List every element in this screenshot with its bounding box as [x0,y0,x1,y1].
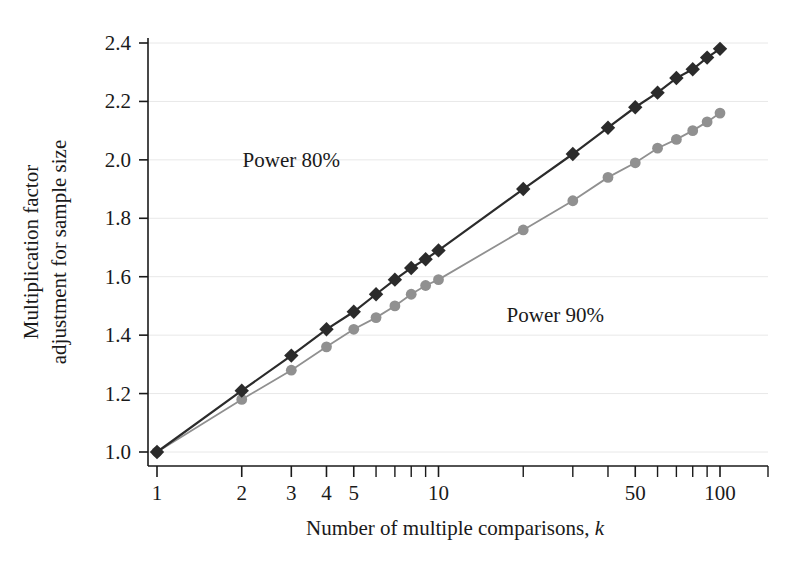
data-point-marker [286,365,297,376]
data-point-marker [406,289,417,300]
data-point-marker [420,280,431,291]
data-point-marker [652,143,663,154]
x-tick-label: 5 [349,481,360,505]
x-tick-label: 10 [428,481,449,505]
data-point-marker [702,116,713,127]
y-tick-label: 2.2 [105,89,131,113]
y-tick-label: 2.4 [105,31,132,55]
x-tick-label: 1 [152,481,163,505]
x-tick-label: 4 [321,481,332,505]
data-point-marker [630,157,641,168]
data-point-marker [671,134,682,145]
data-point-marker [715,108,726,119]
data-point-marker [603,172,614,183]
y-tick-label: 1.6 [105,265,131,289]
data-point-marker [321,341,332,352]
x-axis-title: Number of multiple comparisons, k [306,516,605,540]
y-tick-label: 1.8 [105,206,131,230]
series-label-power-90-: Power 90% [507,303,604,327]
x-tick-label: 3 [286,481,297,505]
y-tick-label: 1.4 [105,323,132,347]
data-point-marker [687,125,698,136]
x-axis-title-main: Number of multiple comparisons, [306,516,595,540]
y-axis-title-line1: Multiplication factor [19,165,43,339]
data-point-marker [389,301,400,312]
x-axis-title-text: Number of multiple comparisons, k [306,516,605,540]
data-point-marker [348,324,359,335]
data-point-marker [518,225,529,236]
x-tick-label: 100 [704,481,736,505]
chart-figure: 1.01.21.41.61.82.02.22.4 123451050100 Po… [0,0,806,572]
x-axis-title-variable: k [595,516,605,540]
x-tick-label: 2 [236,481,247,505]
data-point-marker [371,312,382,323]
y-tick-label: 2.0 [105,148,131,172]
chart-canvas: 1.01.21.41.61.82.02.22.4 123451050100 Po… [0,0,806,572]
y-tick-label: 1.0 [105,440,131,464]
data-point-marker [567,195,578,206]
x-tick-label: 50 [625,481,646,505]
y-tick-label: 1.2 [105,382,131,406]
y-axis-title-line2: adjustment for sample size [47,140,71,365]
data-point-marker [433,274,444,285]
series-label-power-80-: Power 80% [243,148,340,172]
